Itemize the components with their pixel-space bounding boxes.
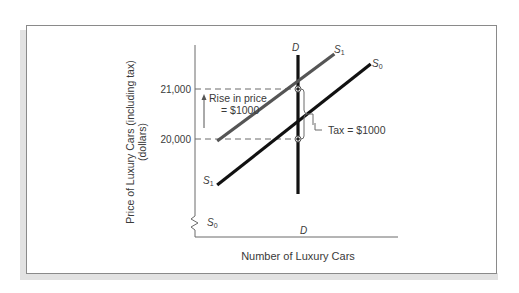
y-tick-label: 20,000: [160, 134, 191, 145]
rise-in-price-label-line2: = $1000: [221, 104, 259, 116]
s0-label-top: S0: [372, 58, 383, 70]
tax-label: Tax = $1000: [328, 124, 386, 136]
y-axis-label: Price of Luxury Cars (including tax): [124, 60, 136, 223]
tax-leader-line: [315, 123, 322, 130]
rise-arrow-up-icon: [202, 94, 207, 100]
x-axis-label: Number of Luxury Cars: [241, 250, 355, 262]
demand-label-top: D: [292, 42, 299, 53]
y-tick-label: 21,000: [160, 84, 191, 95]
y-axis-units: (dollars): [136, 123, 148, 161]
supply-demand-chart: 21,000 20,000 Price of Luxury Cars (incl…: [0, 0, 519, 293]
tax-leader-line: [307, 114, 313, 125]
axis-break-icon: [191, 214, 198, 237]
s0-label-bottom: S0: [207, 217, 218, 229]
rise-in-price-label-line1: Rise in price: [209, 92, 267, 104]
equilibrium-dot: [296, 137, 300, 141]
tax-brace-icon: [301, 89, 307, 139]
equilibrium-dot: [296, 87, 300, 91]
s1-label-bottom: S1: [203, 175, 214, 187]
demand-label-bottom: D: [300, 225, 307, 236]
s1-label-top: S1: [334, 44, 345, 56]
